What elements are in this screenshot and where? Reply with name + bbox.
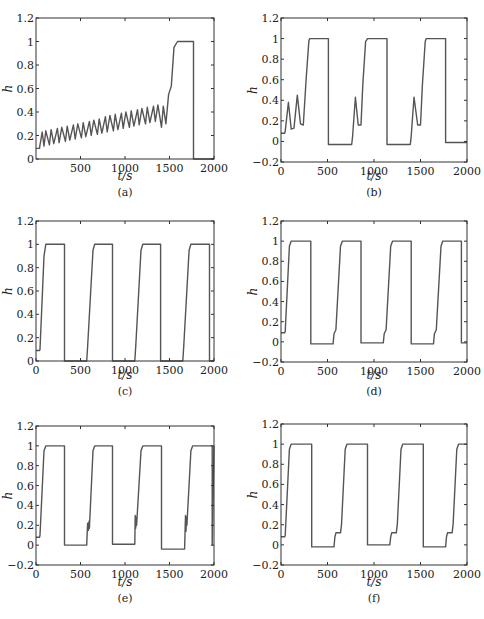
- y-tick-label: 0.4: [17, 106, 35, 119]
- y-axis-label: h: [1, 287, 15, 295]
- y-tick-label: 1: [272, 235, 279, 248]
- y-tick-label: 0.8: [17, 460, 35, 473]
- x-axis-label: t/s: [366, 368, 381, 382]
- x-tick-label: 500: [317, 165, 338, 178]
- y-axis-label: h: [246, 86, 260, 94]
- subplot-caption: (c): [118, 385, 133, 398]
- subplot-caption: (b): [366, 186, 382, 199]
- x-tick-label: 1500: [156, 568, 184, 581]
- y-tick-label: 0.6: [262, 275, 280, 288]
- chart-svg: −0.200.20.40.60.811.20500100015002000ht/…: [0, 410, 242, 619]
- subplot-caption: (f): [368, 592, 381, 605]
- chart-svg: 00.20.40.60.811.20500100015002000ht/s(c): [0, 205, 242, 410]
- subplot-b: −0.200.20.40.60.811.20500100015002000ht/…: [242, 0, 484, 205]
- y-tick-label: 0.8: [17, 59, 35, 72]
- y-tick-label: 0.6: [17, 83, 35, 96]
- subplot-caption: (e): [117, 592, 132, 605]
- x-tick-label: 2000: [200, 162, 228, 175]
- y-tick-label: 1: [27, 238, 34, 251]
- y-axis-label: h: [1, 492, 15, 500]
- y-tick-label: 0.6: [17, 285, 35, 298]
- y-tick-label: 0.2: [17, 332, 35, 345]
- y-tick-label: 0.4: [17, 308, 35, 321]
- axes-frame: [281, 424, 467, 565]
- data-line: [281, 241, 467, 344]
- y-axis-label: h: [246, 491, 260, 499]
- subplot-a: 00.20.40.60.811.2500100015002000ht/s(a): [0, 0, 242, 205]
- y-tick-label: 0.8: [17, 262, 35, 275]
- data-line: [36, 446, 214, 549]
- data-line: [36, 244, 214, 361]
- y-tick-label: 0.8: [262, 255, 280, 268]
- x-tick-label: 1500: [407, 165, 435, 178]
- chart-svg: −0.200.20.40.60.811.20500100015002000ht/…: [242, 410, 484, 619]
- x-tick-label: 500: [70, 568, 91, 581]
- y-tick-label: 0.2: [17, 519, 35, 532]
- y-tick-label: 0: [27, 153, 34, 166]
- subplot-c: 00.20.40.60.811.20500100015002000ht/s(c): [0, 205, 242, 410]
- subplot-d: −0.200.20.40.60.811.20500100015002000ht/…: [242, 205, 484, 410]
- subplot-caption: (d): [366, 385, 382, 398]
- x-axis-label: t/s: [117, 575, 132, 589]
- y-tick-label: 1.2: [262, 418, 280, 431]
- y-tick-label: 0.4: [17, 499, 35, 512]
- data-line: [36, 42, 214, 160]
- x-tick-label: 500: [70, 162, 91, 175]
- x-tick-label: 500: [317, 568, 338, 581]
- x-tick-label: 2000: [200, 364, 228, 377]
- chart-svg: −0.200.20.40.60.811.20500100015002000ht/…: [242, 0, 484, 205]
- y-tick-label: 0.8: [262, 53, 280, 66]
- y-tick-label: 0.2: [17, 130, 35, 143]
- x-tick-label: 0: [278, 568, 285, 581]
- x-tick-label: 1500: [407, 568, 435, 581]
- x-tick-label: 500: [70, 364, 91, 377]
- y-axis-label: h: [1, 85, 15, 93]
- y-tick-label: 1.2: [262, 215, 280, 228]
- x-axis-label: t/s: [366, 169, 381, 183]
- chart-svg: 00.20.40.60.811.2500100015002000ht/s(a): [0, 0, 242, 205]
- subplot-e: −0.200.20.40.60.811.20500100015002000ht/…: [0, 410, 242, 619]
- y-tick-label: 0: [272, 336, 279, 349]
- y-tick-label: 0: [27, 539, 34, 552]
- x-tick-label: 1500: [156, 162, 184, 175]
- y-tick-label: 0: [272, 539, 279, 552]
- y-tick-label: 0.6: [262, 74, 280, 87]
- data-line: [281, 444, 467, 547]
- y-tick-label: 1.2: [17, 215, 35, 228]
- chart-svg: −0.200.20.40.60.811.20500100015002000ht/…: [242, 205, 484, 410]
- x-axis-label: t/s: [117, 169, 132, 183]
- y-tick-label: 0.6: [17, 480, 35, 493]
- y-tick-label: 0.2: [262, 316, 280, 329]
- y-tick-label: 1: [27, 440, 34, 453]
- y-tick-label: 0.4: [262, 94, 280, 107]
- x-axis-label: t/s: [117, 368, 132, 382]
- data-line: [281, 39, 467, 145]
- subplot-f: −0.200.20.40.60.811.20500100015002000ht/…: [242, 410, 484, 619]
- y-tick-label: −0.2: [252, 559, 279, 572]
- y-tick-label: −0.2: [252, 356, 279, 369]
- y-tick-label: 1: [272, 33, 279, 46]
- y-tick-label: 0.6: [262, 478, 280, 491]
- x-tick-label: 0: [278, 165, 285, 178]
- y-axis-label: h: [246, 288, 260, 296]
- subplot-caption: (a): [117, 186, 132, 199]
- y-tick-label: 0: [272, 135, 279, 148]
- y-tick-label: 1: [272, 438, 279, 451]
- y-tick-label: 1.2: [17, 12, 35, 25]
- y-tick-label: 0.4: [262, 296, 280, 309]
- y-tick-label: 0.4: [262, 499, 280, 512]
- x-tick-label: 500: [317, 365, 338, 378]
- x-tick-label: 0: [33, 364, 40, 377]
- y-tick-label: −0.2: [7, 559, 34, 572]
- y-tick-label: 0.2: [262, 519, 280, 532]
- x-tick-label: 2000: [453, 365, 481, 378]
- x-tick-label: 1500: [156, 364, 184, 377]
- y-tick-label: 1.2: [17, 420, 35, 433]
- y-tick-label: 0.2: [262, 115, 280, 128]
- x-tick-label: 2000: [453, 165, 481, 178]
- axes-frame: [36, 18, 214, 159]
- y-tick-label: −0.2: [252, 156, 279, 169]
- x-axis-label: t/s: [366, 575, 381, 589]
- x-tick-label: 0: [33, 568, 40, 581]
- x-tick-label: 0: [278, 365, 285, 378]
